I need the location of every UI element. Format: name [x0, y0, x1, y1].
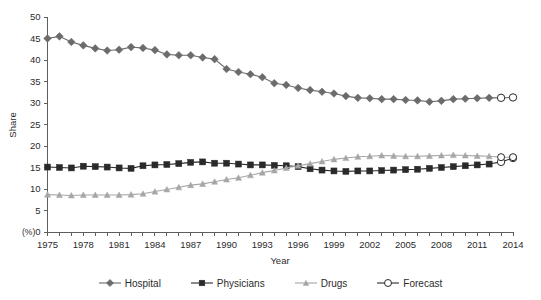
series-hospital	[44, 33, 517, 106]
data-point-square	[92, 164, 98, 170]
x-tick-label: 2008	[431, 239, 452, 250]
data-point-square	[152, 162, 158, 168]
data-point-forecast-circle	[510, 154, 517, 161]
data-point-diamond	[354, 94, 362, 102]
data-point-square	[68, 165, 74, 171]
legend-marker-diamond	[99, 277, 121, 289]
y-tick-label: 45	[30, 33, 41, 44]
data-point-diamond	[402, 96, 410, 104]
legend-item-label: Hospital	[125, 278, 161, 289]
x-tick-label: 1993	[252, 239, 273, 250]
data-point-diamond	[80, 42, 88, 50]
data-point-forecast-circle	[509, 94, 516, 101]
x-tick-label: 2014	[502, 239, 523, 250]
data-point-diamond	[175, 51, 183, 59]
data-point-square	[45, 164, 51, 170]
data-point-diamond	[426, 98, 434, 106]
data-point-square	[140, 163, 146, 169]
data-point-diamond	[247, 70, 255, 78]
data-point-square	[188, 159, 194, 165]
y-tick-label: 15	[30, 162, 41, 173]
data-point-diamond	[259, 73, 267, 81]
data-point-diamond	[318, 88, 326, 96]
legend-marker-open-circle	[377, 277, 399, 289]
y-tick-label: 35	[30, 76, 41, 87]
chart-legend: HospitalPhysiciansDrugsForecast	[0, 272, 541, 294]
legend-item-forecast[interactable]: Forecast	[377, 277, 442, 289]
data-point-diamond	[106, 279, 113, 286]
y-tick-label: 5	[35, 205, 40, 216]
legend-item-label: Physicians	[217, 278, 265, 289]
x-tick-label: 1978	[73, 239, 94, 250]
data-point-square	[415, 166, 421, 172]
data-point-diamond	[342, 92, 350, 100]
chart-container: 05101520253035404550 Share (%) 197519781…	[0, 0, 541, 300]
legend-item-physicians[interactable]: Physicians	[191, 277, 265, 289]
legend-item-drugs[interactable]: Drugs	[295, 277, 348, 289]
y-tick-label: 25	[30, 119, 41, 130]
legend-item-hospital[interactable]: Hospital	[99, 277, 161, 289]
data-point-diamond	[282, 81, 290, 89]
data-point-square	[128, 165, 134, 171]
data-point-square	[247, 162, 253, 168]
data-point-diamond	[44, 35, 52, 43]
data-point-square	[486, 161, 492, 167]
data-point-square	[235, 161, 241, 167]
data-point-square	[355, 168, 361, 174]
data-point-square	[80, 163, 86, 169]
data-point-diamond	[450, 95, 458, 103]
series-line	[48, 155, 514, 195]
data-point-square	[438, 165, 444, 171]
data-point-square	[307, 166, 313, 172]
data-point-square	[474, 162, 480, 168]
x-axis-ticks: 1975197819811984198719901993199619992002…	[37, 232, 524, 250]
series-line	[48, 36, 514, 101]
data-point-square	[391, 167, 397, 173]
x-tick-label: 1999	[323, 239, 344, 250]
data-point-diamond	[414, 97, 422, 105]
data-point-forecast-circle	[497, 94, 504, 101]
data-point-diamond	[199, 54, 207, 62]
data-point-square	[224, 160, 230, 166]
x-tick-label: 1975	[37, 239, 58, 250]
y-tick-label: 10	[30, 183, 41, 194]
data-point-diamond	[235, 68, 243, 76]
series-physicians	[45, 154, 517, 174]
chart-plot: 05101520253035404550 Share (%) 197519781…	[0, 0, 541, 300]
x-tick-label: 2011	[467, 239, 487, 250]
data-point-square	[331, 168, 337, 174]
data-point-diamond	[91, 45, 99, 53]
data-point-diamond	[187, 51, 195, 59]
data-point-square	[56, 165, 62, 171]
data-point-square	[367, 168, 373, 174]
y-tick-label: 40	[30, 54, 41, 65]
series-layer	[44, 33, 517, 198]
data-point-square	[319, 167, 325, 173]
y-axis-ticks: 05101520253035404550	[30, 11, 48, 237]
data-point-forecast-circle	[498, 154, 505, 161]
legend-marker-triangle	[295, 277, 317, 289]
data-point-square	[343, 168, 349, 174]
data-point-square	[379, 168, 385, 174]
x-tick-label: 1984	[144, 239, 165, 250]
data-point-diamond	[139, 44, 147, 52]
legend-marker-square	[191, 277, 213, 289]
data-point-square	[403, 167, 409, 173]
data-point-diamond	[294, 84, 302, 92]
x-axis-title: Year	[270, 255, 289, 266]
data-point-diamond	[366, 94, 374, 102]
data-point-square	[164, 161, 170, 167]
data-point-diamond	[485, 94, 493, 102]
y-tick-label: 30	[30, 97, 41, 108]
x-tick-label: 1981	[109, 239, 130, 250]
x-tick-label: 2005	[395, 239, 416, 250]
data-point-square	[450, 164, 456, 170]
x-tick-label: 1987	[180, 239, 201, 250]
x-tick-label: 1990	[216, 239, 237, 250]
y-tick-label: 20	[30, 140, 41, 151]
y-axis-group: 05101520253035404550 Share (%)	[7, 11, 48, 237]
series-drugs	[45, 152, 517, 198]
data-point-diamond	[378, 95, 386, 103]
y-tick-label: 50	[30, 11, 41, 22]
data-point-diamond	[330, 90, 338, 98]
